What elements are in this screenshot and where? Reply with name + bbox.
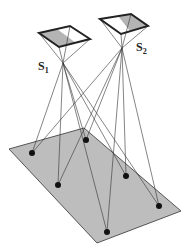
s2-ray xyxy=(86,48,122,140)
ground-point xyxy=(55,182,61,188)
s1-ray xyxy=(63,63,86,140)
s2-ray xyxy=(122,48,126,176)
s1-label: S1 xyxy=(38,59,49,75)
stereo-camera-diagram: S1S2 xyxy=(0,0,192,252)
s2-label: S2 xyxy=(136,40,147,56)
sensors: S1S2 xyxy=(38,14,148,75)
ground-point xyxy=(123,173,129,179)
ground-point xyxy=(156,203,162,209)
s1-label-subscript: 1 xyxy=(45,66,49,75)
ground-point xyxy=(104,229,110,235)
diagram-canvas: S1S2 xyxy=(0,0,192,252)
s2-frustum-edge xyxy=(121,34,122,48)
ground-point xyxy=(83,137,89,143)
sensor-s2: S2 xyxy=(100,14,148,56)
ground-point xyxy=(29,150,35,156)
s2-label-subscript: 2 xyxy=(143,47,147,56)
